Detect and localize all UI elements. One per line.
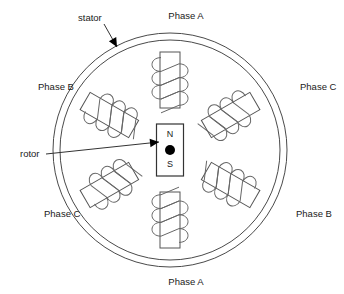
pole-top [152,52,188,113]
pole-lower-left-phase-label: Phase C [44,208,81,219]
pole-upper-left-phase-label: Phase B [38,81,74,92]
pole-bottom-body [160,192,180,248]
motor-diagram: NS Phase APhase CPhase BPhase APhase CPh… [0,0,344,294]
pole-top-phase-label: Phase A [168,10,204,21]
rotor-north-label: N [167,129,174,139]
rotor-leader [46,139,159,154]
stator-leader [104,24,117,47]
pole-top-body [160,52,180,108]
rotor-leader-line [46,142,159,154]
pole-lower-right-phase-label: Phase B [296,208,332,219]
rotor-assembly: NS [157,124,184,176]
pole-lower-left [76,153,147,215]
pole-upper-right [193,85,264,147]
pole-bottom-phase-label: Phase A [168,276,204,287]
pole-upper-right-phase-label: Phase C [300,81,337,92]
rotor-shaft-dot [165,145,175,155]
rotor-label: rotor [20,148,40,159]
rotor-south-label: S [167,159,173,169]
pole-upper-left [76,85,147,147]
pole-bottom [152,187,188,248]
pole-upper-left-body [80,92,138,137]
pole-lower-right-body [201,162,259,207]
motor-cross-section-svg: NS Phase APhase CPhase BPhase APhase CPh… [0,0,344,294]
pole-lower-right [193,153,264,215]
stator-label: stator [78,12,102,23]
stator-leader-head [109,37,117,47]
